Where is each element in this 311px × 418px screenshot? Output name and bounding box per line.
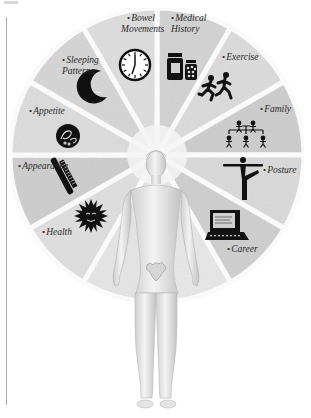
food-plate-icon <box>56 124 80 148</box>
label-posture: •Posture <box>263 165 296 176</box>
label-line: Posture <box>267 165 296 175</box>
label-line: Sleeping <box>66 55 99 65</box>
label-appearance: •Appearance <box>18 161 68 172</box>
label-line: Family <box>264 104 291 114</box>
label-line: Exercise <box>226 52 258 62</box>
label-line: History <box>171 24 200 34</box>
label-sleeping-patterns: •Sleeping Patterns <box>62 55 99 77</box>
label-health: •Health <box>42 227 72 238</box>
label-exercise: •Exercise <box>222 52 259 63</box>
wheel-diagram <box>0 0 311 418</box>
label-line: Medical <box>175 13 206 23</box>
label-bowel-movements: •Bowel Movements <box>127 13 164 35</box>
label-line: Appetite <box>33 106 65 116</box>
label-line: Movements <box>121 24 164 34</box>
label-appetite: •Appetite <box>29 106 65 117</box>
label-line: Appearance <box>22 161 68 171</box>
label-career: •Career <box>227 244 258 255</box>
label-line: Career <box>231 244 258 254</box>
clock-icon <box>120 50 150 80</box>
label-medical-history: •Medical History <box>171 13 206 35</box>
label-line: Health <box>46 227 72 237</box>
label-line: Patterns <box>62 66 94 76</box>
label-family: •Family <box>260 104 291 115</box>
label-line: Bowel <box>131 13 155 23</box>
sun-face-icon <box>74 199 108 233</box>
